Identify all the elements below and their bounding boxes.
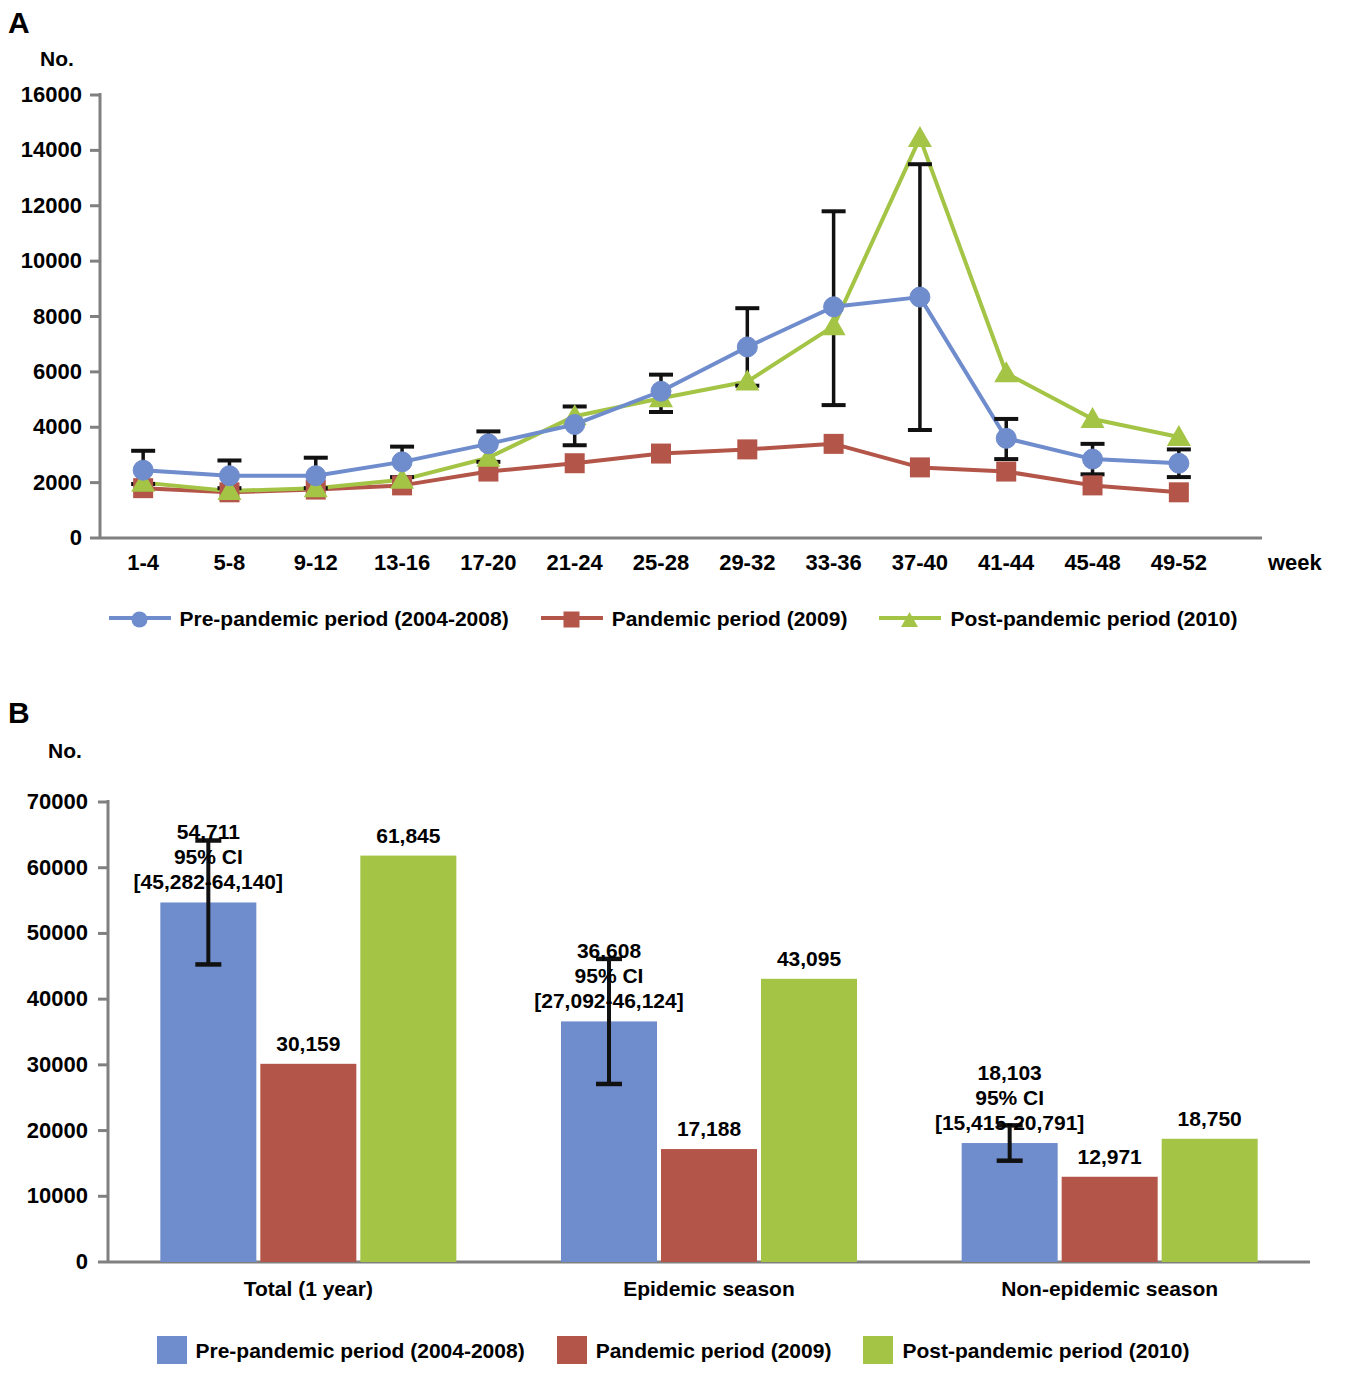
panel-a-x-tick-label: 29-32 — [704, 552, 790, 574]
panel-b-legend-item: Pandemic period (2009) — [557, 1336, 832, 1364]
panel-a-legend: Pre-pandemic period (2004-2008)Pandemic … — [0, 598, 1346, 638]
panel-b-legend-label: Post-pandemic period (2010) — [902, 1340, 1189, 1361]
panel-b-bar-label: 18,750 — [1060, 1106, 1346, 1131]
panel-b-category-label: Non-epidemic season — [909, 1278, 1310, 1299]
panel-a-y-tick-label: 12000 — [0, 195, 82, 217]
panel-b-bar-label: 61,845 — [258, 823, 558, 848]
panel-a-y-tick-label: 10000 — [0, 250, 82, 272]
panel-b-y-tick-label: 30000 — [0, 1054, 88, 1076]
legend-marker-square-icon — [562, 610, 581, 629]
panel-b-bar-label: 43,095 — [659, 946, 959, 971]
panel-b-legend-label: Pre-pandemic period (2004-2008) — [196, 1340, 525, 1361]
panel-a-y-tick-label: 6000 — [0, 361, 82, 383]
panel-b-bar-label: 17,188 — [559, 1116, 859, 1141]
panel-a-x-tick-label: 21-24 — [532, 552, 618, 574]
panel-a-y-tick-label: 2000 — [0, 472, 82, 494]
legend-swatch — [557, 1336, 587, 1364]
panel-a-x-tick-label: 1-4 — [100, 552, 186, 574]
panel-a-x-tick-label: 17-20 — [445, 552, 531, 574]
panel-a-legend-label: Pandemic period (2009) — [612, 608, 848, 629]
panel-a-legend-label: Post-pandemic period (2010) — [950, 608, 1237, 629]
panel-b-legend: Pre-pandemic period (2004-2008)Pandemic … — [0, 1330, 1346, 1370]
panel-a-x-tick-label: 33-36 — [790, 552, 876, 574]
panel-b-y-tick-label: 0 — [0, 1251, 88, 1273]
panel-b-y-tick-label: 40000 — [0, 988, 88, 1010]
panel-b-legend-label: Pandemic period (2009) — [596, 1340, 832, 1361]
panel-b-legend-item: Post-pandemic period (2010) — [863, 1336, 1189, 1364]
panel-a-x-tick-label: 41-44 — [963, 552, 1049, 574]
panel-a-legend-label: Pre-pandemic period (2004-2008) — [180, 608, 509, 629]
panel-a-y-tick-label: 4000 — [0, 416, 82, 438]
panel-a-x-tick-label: 13-16 — [359, 552, 445, 574]
legend-swatch — [109, 607, 171, 629]
panel-a-legend-item: Pandemic period (2009) — [541, 607, 848, 629]
panel-b-legend-item: Pre-pandemic period (2004-2008) — [157, 1336, 525, 1364]
panel-a-x-tick-label: 37-40 — [877, 552, 963, 574]
legend-swatch — [879, 607, 941, 629]
panel-b-bar-label: 12,971 — [960, 1144, 1260, 1169]
panel-b-y-tick-label: 20000 — [0, 1120, 88, 1142]
legend-swatch — [541, 607, 603, 629]
panel-b-y-tick-label: 70000 — [0, 791, 88, 813]
legend-swatch — [863, 1336, 893, 1364]
panel-a-x-tick-label: 45-48 — [1049, 552, 1135, 574]
panel-b-plot — [0, 660, 1346, 1384]
panel-a-legend-item: Pre-pandemic period (2004-2008) — [109, 607, 509, 629]
panel-a-x-tick-label: 5-8 — [186, 552, 272, 574]
panel-a-x-tick-label: 25-28 — [618, 552, 704, 574]
panel-b-y-tick-label: 50000 — [0, 922, 88, 944]
figure-root: A No. Pre-pandemic period (2004-2008)Pan… — [0, 0, 1346, 1384]
panel-b-category-label: Total (1 year) — [108, 1278, 509, 1299]
legend-marker-circle-icon — [130, 610, 149, 629]
panel-b-category-label: Epidemic season — [509, 1278, 910, 1299]
panel-a: A No. Pre-pandemic period (2004-2008)Pan… — [0, 0, 1346, 660]
panel-b-y-tick-label: 10000 — [0, 1185, 88, 1207]
legend-marker-triangle-icon — [900, 610, 919, 629]
panel-a-x-axis-unit: week — [1268, 552, 1322, 574]
panel-a-x-tick-label: 49-52 — [1136, 552, 1222, 574]
panel-a-x-tick-label: 9-12 — [273, 552, 359, 574]
panel-a-y-tick-label: 16000 — [0, 84, 82, 106]
panel-a-legend-item: Post-pandemic period (2010) — [879, 607, 1237, 629]
panel-a-y-tick-label: 14000 — [0, 139, 82, 161]
legend-swatch — [157, 1336, 187, 1364]
panel-b: B No. Pre-pandemic period (2004-2008)Pan… — [0, 660, 1346, 1384]
panel-a-y-tick-label: 8000 — [0, 306, 82, 328]
panel-a-y-tick-label: 0 — [0, 527, 82, 549]
panel-b-bar-label: 30,159 — [158, 1031, 458, 1056]
